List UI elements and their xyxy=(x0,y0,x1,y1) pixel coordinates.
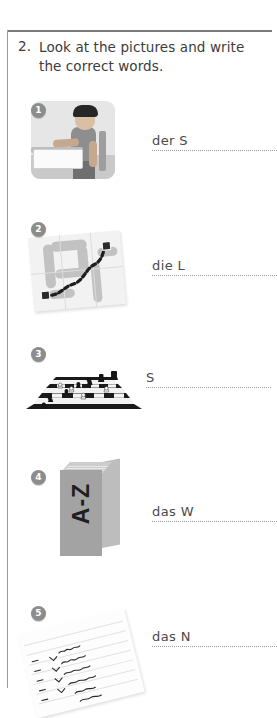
answer-prefix-4: das W xyxy=(152,504,277,519)
picture-chessboard xyxy=(24,368,144,410)
page-frame-top-border xyxy=(7,30,272,32)
answer-prefix-2: die L xyxy=(152,258,277,273)
answer-slot-4[interactable]: das W xyxy=(152,504,277,522)
picture-notepad xyxy=(17,608,145,718)
p1-desk-body xyxy=(33,149,83,169)
answer-dotted-line-4[interactable] xyxy=(152,521,277,522)
item-number-badge-1: 1 xyxy=(31,103,46,118)
p2-route-marker-end xyxy=(102,241,112,251)
answer-slot-2[interactable]: die L xyxy=(152,258,277,276)
p2-route-marker-start xyxy=(41,290,51,300)
page-frame-left-border xyxy=(7,30,8,688)
p5-handwriting xyxy=(17,608,145,718)
item-number-badge-4: 4 xyxy=(31,470,46,485)
answer-dotted-line-3[interactable] xyxy=(146,387,271,388)
p4-book-spine-label: A-Z xyxy=(68,469,95,539)
p1-arm-back xyxy=(89,141,97,167)
item-number-badge-3: 3 xyxy=(31,347,46,362)
answer-dotted-line-1[interactable] xyxy=(152,150,277,151)
answer-dotted-line-2[interactable] xyxy=(152,275,277,276)
exercise-instruction: Look at the pictures and write the corre… xyxy=(39,38,257,76)
item-number-badge-2: 2 xyxy=(31,222,46,237)
answer-prefix-1: der S xyxy=(152,133,277,148)
answer-dotted-line-5[interactable] xyxy=(152,646,277,647)
answer-prefix-3: S xyxy=(146,370,271,385)
item-number-badge-5: 5 xyxy=(31,606,46,621)
picture-folded-map xyxy=(28,230,126,312)
answer-slot-1[interactable]: der S xyxy=(152,133,277,151)
picture-dictionary-book: A-Z xyxy=(60,460,122,556)
answer-slot-5[interactable]: das N xyxy=(152,629,277,647)
answer-prefix-5: das N xyxy=(152,629,277,644)
answer-slot-3[interactable]: S xyxy=(146,370,271,388)
p1-hair xyxy=(73,105,98,117)
p1-chair xyxy=(99,131,106,171)
p4-book-side xyxy=(102,459,120,548)
exercise-number: 2. xyxy=(18,38,31,54)
